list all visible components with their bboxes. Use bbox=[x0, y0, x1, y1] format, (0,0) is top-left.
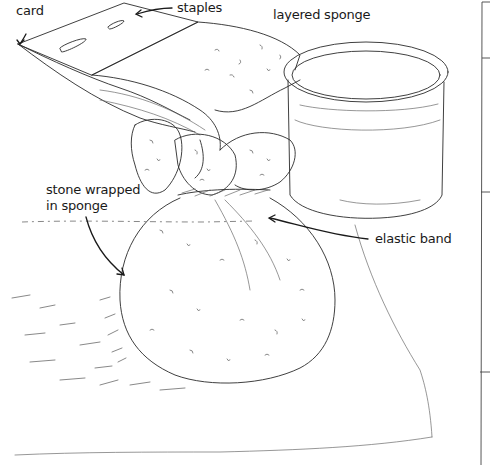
layered-sponge bbox=[92, 22, 300, 196]
margin-frame bbox=[480, 2, 490, 465]
staple-2 bbox=[108, 21, 124, 29]
label-card: card bbox=[16, 3, 44, 19]
label-elastic-band: elastic band bbox=[375, 231, 452, 247]
staple-1 bbox=[60, 39, 86, 52]
wrapped-stone bbox=[12, 198, 335, 390]
stone-arrow bbox=[86, 217, 124, 275]
elastic-band-arrow bbox=[270, 218, 368, 239]
label-staples: staples bbox=[177, 0, 222, 16]
glass-jar bbox=[284, 42, 448, 218]
sponge-texture bbox=[145, 45, 305, 361]
cloth-surface bbox=[15, 221, 432, 455]
label-layered-sponge: layered sponge bbox=[273, 7, 370, 23]
label-stone-wrapped-in-sponge: stone wrapped in sponge bbox=[46, 182, 140, 214]
